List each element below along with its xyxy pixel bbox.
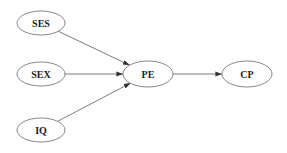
node-pe-label: PE	[142, 69, 155, 80]
nodes: SES SEX IQ PE CP	[17, 11, 272, 142]
node-sex: SEX	[17, 62, 65, 86]
edge-ses-to-pe	[58, 31, 129, 65]
node-cp: CP	[222, 61, 272, 87]
node-ses: SES	[17, 11, 65, 35]
node-cp-label: CP	[240, 69, 253, 80]
node-iq-label: IQ	[35, 125, 47, 136]
node-pe: PE	[123, 61, 173, 87]
edge-iq-to-pe	[58, 83, 131, 121]
path-diagram: SES SEX IQ PE CP	[0, 0, 287, 153]
node-sex-label: SEX	[31, 69, 51, 80]
node-ses-label: SES	[32, 18, 50, 29]
node-iq: IQ	[17, 118, 65, 142]
